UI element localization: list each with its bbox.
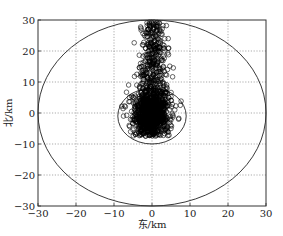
data-point: [161, 23, 166, 28]
y-tick-label: −30: [14, 201, 35, 212]
data-point: [135, 83, 140, 88]
data-point: [121, 114, 126, 119]
data-point: [170, 75, 175, 80]
data-point: [178, 103, 183, 108]
x-axis-ticks: −30−20−100102030: [27, 203, 272, 219]
x-tick-label: −10: [103, 208, 124, 219]
y-axis-ticks: −30−20−100102030: [14, 15, 41, 212]
x-axis-label: 东/km: [138, 218, 167, 230]
x-tick-label: 20: [222, 208, 235, 219]
y-tick-label: −20: [14, 170, 35, 181]
y-tick-label: 20: [22, 46, 35, 57]
y-axis-label: 北/km: [3, 98, 14, 127]
scatter-chart: −30−20−100102030 −30−20−100102030 东/km 北…: [0, 0, 283, 236]
data-point: [173, 108, 178, 113]
data-point: [124, 113, 129, 118]
data-point: [160, 32, 165, 37]
data-point: [126, 83, 131, 88]
y-tick-label: −10: [14, 139, 35, 150]
data-point: [163, 36, 168, 41]
data-point: [127, 99, 132, 104]
x-tick-label: 10: [184, 208, 197, 219]
y-tick-label: 10: [22, 77, 35, 88]
scatter-points: [120, 20, 184, 139]
y-tick-label: 30: [22, 15, 35, 26]
x-tick-label: 0: [149, 208, 155, 219]
x-tick-label: 30: [260, 208, 273, 219]
data-point: [124, 90, 129, 95]
y-tick-label: 0: [29, 108, 35, 119]
data-point: [132, 41, 137, 46]
data-point: [166, 52, 171, 57]
x-tick-label: −20: [65, 208, 86, 219]
